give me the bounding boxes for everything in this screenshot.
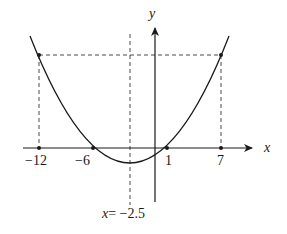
point-x-7-axis: [219, 146, 223, 150]
x-axis-label: x: [263, 140, 271, 155]
tick-label-minus-12: −12: [25, 153, 47, 168]
y-axis-label: y: [147, 6, 156, 21]
point-curve-x-minus-12: [37, 53, 41, 57]
parabola-curve: [30, 36, 229, 163]
dashed-guides: [39, 34, 221, 205]
tick-label-minus-6: −6: [75, 153, 90, 168]
point-curve-x-7: [219, 53, 223, 57]
point-x-minus-12-axis: [37, 146, 41, 150]
tick-label-7: 7: [217, 153, 224, 168]
tick-label-1: 1: [165, 153, 172, 168]
axis-of-symmetry-label: x= −2.5: [101, 206, 145, 221]
parabola-graph: x y −12 −6 1 7 x= −2.5: [0, 0, 287, 234]
point-x-1-root: [165, 146, 169, 150]
point-x-minus-6-root: [91, 146, 95, 150]
symmetry-value: = −2.5: [108, 206, 145, 221]
